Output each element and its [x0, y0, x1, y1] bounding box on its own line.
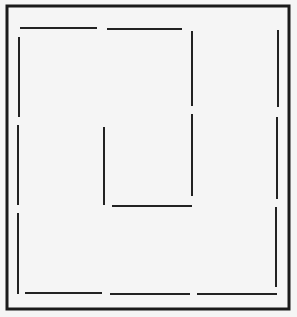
outer-frame: [7, 6, 289, 309]
line-segments: [18, 28, 278, 294]
diagram-canvas: [0, 0, 297, 317]
